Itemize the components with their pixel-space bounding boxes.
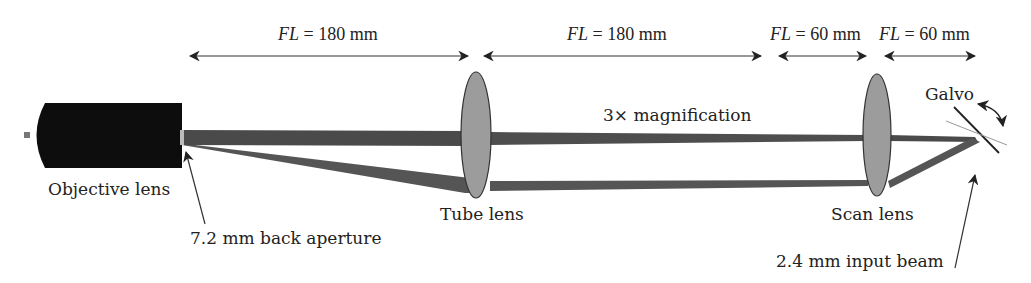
back-aperture-label: 7.2 mm back aperture	[190, 228, 382, 248]
objective-lens	[24, 103, 184, 168]
input-beam-pointer	[955, 175, 975, 268]
svg-text:FL = 60 mm: FL = 60 mm	[769, 24, 861, 44]
beam-paths	[182, 130, 980, 193]
dimension-fl-60-scan-right: FL = 60 mm	[878, 24, 975, 56]
svg-text:FL = 180 mm: FL = 180 mm	[277, 24, 378, 44]
dimension-fl-180-tube: FL = 180 mm	[190, 24, 468, 56]
dimension-fl-60-scan-left: FL = 60 mm	[769, 24, 866, 56]
galvo-label: Galvo	[925, 84, 974, 104]
dim-label-value: = 180 mm	[588, 24, 667, 44]
back-aperture-pointer	[186, 152, 205, 224]
optical-layout-diagram: FL = 180 mm FL = 180 mm FL = 60 mm FL = …	[0, 0, 1031, 283]
svg-text:FL = 180 mm: FL = 180 mm	[566, 24, 667, 44]
dim-label-italic: FL	[566, 24, 588, 44]
dim-label-value: = 60 mm	[900, 24, 970, 44]
magnification-label: 3× magnification	[603, 105, 751, 125]
objective-lens-label: Objective lens	[48, 179, 170, 199]
dim-label-italic: FL	[878, 24, 900, 44]
rotation-arrow-icon	[978, 104, 1003, 126]
dim-label-italic: FL	[769, 24, 791, 44]
input-beam-label: 2.4 mm input beam	[776, 251, 944, 271]
tube-lens	[461, 72, 491, 198]
galvo-mirror	[946, 104, 1007, 153]
scan-lens-label: Scan lens	[831, 204, 914, 224]
dim-label-italic: FL	[277, 24, 299, 44]
dimension-fl-180-relay: FL = 180 mm	[484, 24, 761, 56]
scan-lens	[863, 74, 891, 196]
dim-label-value: = 60 mm	[791, 24, 861, 44]
tube-lens-label: Tube lens	[440, 204, 524, 224]
svg-text:FL = 60 mm: FL = 60 mm	[878, 24, 970, 44]
dim-label-value: = 180 mm	[299, 24, 378, 44]
